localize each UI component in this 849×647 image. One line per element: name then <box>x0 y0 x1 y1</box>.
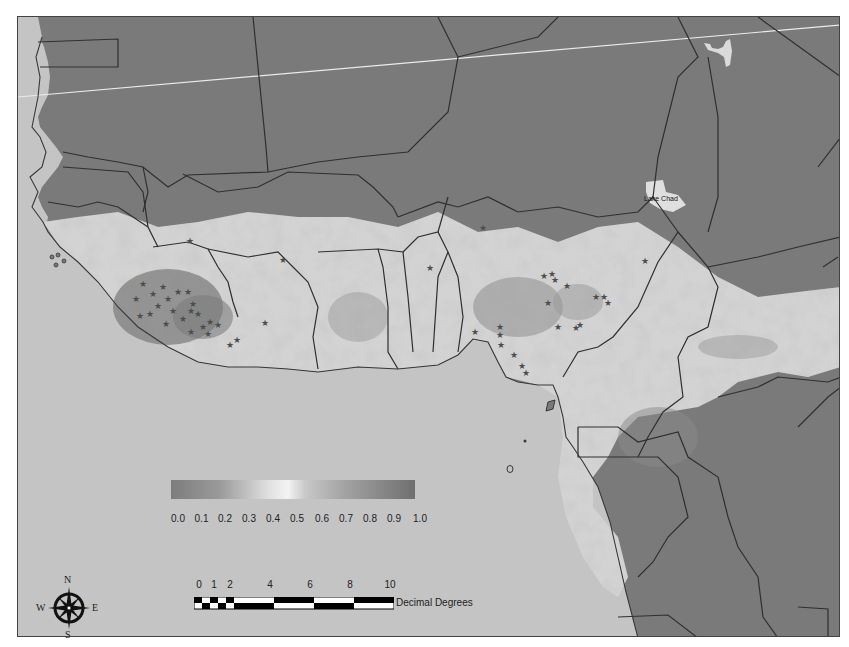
scale-label: 6 <box>307 579 313 590</box>
north-arrow: N S W E <box>46 585 92 631</box>
legend-tick: 0.4 <box>266 513 280 524</box>
compass-rose-icon <box>46 585 92 631</box>
compass-n-label: N <box>64 574 71 585</box>
lake-chad-label: Lake Chad <box>644 195 678 202</box>
scale-label: 4 <box>267 579 273 590</box>
compass-e-label: E <box>92 602 98 613</box>
legend-tick: 1.0 <box>413 513 427 524</box>
legend-tick: 0.1 <box>195 513 209 524</box>
legend-tick: 0.3 <box>242 513 256 524</box>
scale-label: 8 <box>347 579 353 590</box>
legend-tick: 0.7 <box>339 513 353 524</box>
legend-tick: 0.0 <box>171 513 185 524</box>
legend-tick: 0.8 <box>363 513 377 524</box>
compass-s-label: S <box>65 629 71 640</box>
scale-label: 2 <box>227 579 233 590</box>
scale-label: 0 <box>196 579 202 590</box>
legend-tick: 0.6 <box>315 513 329 524</box>
scale-labels: 0 1 2 4 6 8 10 <box>194 579 394 591</box>
legend-ticks: 0.0 0.1 0.2 0.3 0.4 0.5 0.6 0.7 0.8 0.9 … <box>168 513 423 527</box>
scale-bar-graphic <box>194 597 394 611</box>
legend-tick: 0.9 <box>387 513 401 524</box>
scale-unit: Decimal Degrees <box>396 597 473 608</box>
compass-w-label: W <box>36 602 45 613</box>
legend-color-ramp <box>171 480 415 499</box>
map-frame: ★ ★ ★★★ ★★★ ★★★ ★★★ ★★★ ★★★ ★★ ★★ ★ ★ ★ … <box>17 16 840 637</box>
map-canvas: ★ ★ ★★★ ★★★ ★★★ ★★★ ★★★ ★★★ ★★ ★★ ★ ★ ★ … <box>18 17 840 637</box>
scale-label: 10 <box>384 579 395 590</box>
legend-tick: 0.2 <box>218 513 232 524</box>
scale-label: 1 <box>211 579 217 590</box>
legend-tick: 0.5 <box>290 513 304 524</box>
